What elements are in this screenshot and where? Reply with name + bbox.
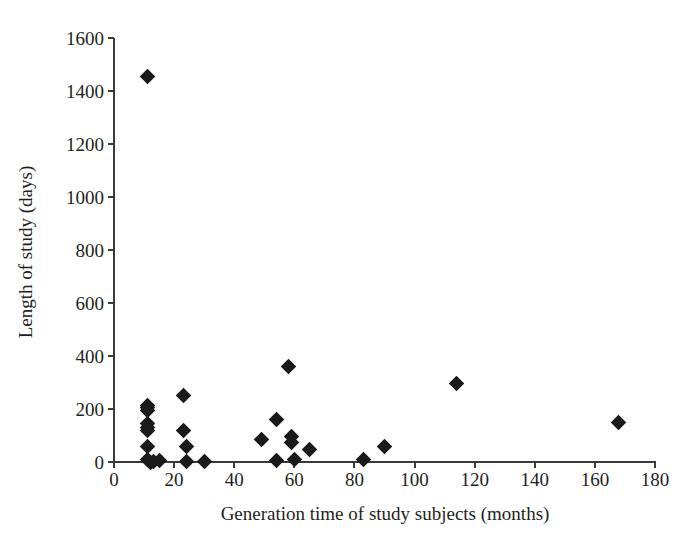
scatter-chart-figure: Length of study (days) 02004006008001000…: [0, 0, 695, 552]
x-axis-tick-label: 180: [641, 470, 670, 489]
y-axis-tick-label: 400: [76, 347, 105, 366]
x-axis-tick: [173, 462, 175, 468]
x-axis-tick: [474, 462, 476, 468]
x-axis-tick-label: 0: [109, 470, 119, 489]
x-axis-tick-label: 120: [460, 470, 489, 489]
y-axis-tick-label: 600: [76, 294, 105, 313]
y-axis-tick-label: 800: [76, 241, 105, 260]
y-axis-tick-label: 1200: [66, 135, 104, 154]
x-axis-tick-label: 80: [345, 470, 364, 489]
y-axis-tick-label: 1000: [66, 188, 104, 207]
y-axis-tick-label: 0: [95, 453, 105, 472]
y-axis-tick-labels: 02004006008001000120014001600: [0, 0, 104, 552]
x-axis-tick: [594, 462, 596, 468]
plot-area: [114, 38, 655, 462]
x-axis-title: Generation time of study subjects (month…: [114, 503, 656, 525]
x-axis-tick-label: 160: [581, 470, 610, 489]
x-axis-tick: [353, 462, 355, 468]
x-axis-tick-label: 60: [285, 470, 304, 489]
x-axis-tick: [654, 462, 656, 468]
y-axis-tick-label: 1400: [66, 82, 104, 101]
y-axis-tick-label: 1600: [66, 29, 104, 48]
x-axis-tick-label: 100: [400, 470, 429, 489]
x-axis-tick: [414, 462, 416, 468]
x-axis-tick: [233, 462, 235, 468]
x-axis-tick: [534, 462, 536, 468]
x-axis-tick-label: 20: [165, 470, 184, 489]
y-axis-tick-label: 200: [76, 400, 105, 419]
x-axis-tick-label: 40: [225, 470, 244, 489]
x-axis-tick-label: 140: [521, 470, 550, 489]
